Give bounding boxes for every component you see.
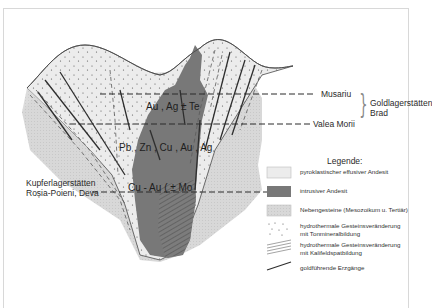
legend-label: intrusiver Andesit bbox=[300, 187, 347, 195]
legend-label-line2: mit Kalifeldspatbildung bbox=[300, 249, 362, 257]
level-label-valea-morii: Valea Morii bbox=[313, 119, 355, 129]
legend-label: goldführende Erzgänge bbox=[300, 264, 364, 272]
mineral-zone-middle: Pb , Zn , Cu , Au , Ag bbox=[119, 142, 212, 153]
legend-item-pyroclastic: pyroklastischer effusiver Andesit bbox=[267, 168, 412, 188]
legend-item-tonmineral: hydrothermale Gesteinsveränderung mit To… bbox=[267, 222, 412, 242]
legend-label: Nebengesteine (Mesozoikum u. Tertiär) bbox=[300, 206, 408, 214]
legend-item-vein: goldführende Erzgänge bbox=[267, 264, 412, 284]
left-label-line1: Kupferlagerstätten bbox=[26, 178, 95, 188]
group-label-line2: Brad bbox=[370, 108, 388, 118]
level-label-musariu: Musariu bbox=[321, 89, 351, 99]
legend-label: pyroklastischer effusiver Andesit bbox=[300, 168, 388, 176]
legend-label-line1: hydrothermale Gesteinsveränderung bbox=[300, 241, 400, 249]
brace-icon: } bbox=[359, 89, 367, 119]
mineral-zone-lower: Cu - Au ( ± Mo bbox=[128, 182, 192, 193]
legend-label-line1: hydrothermale Gesteinsveränderung bbox=[300, 222, 400, 230]
legend-label-line2: mit Tonmineralbildung bbox=[300, 230, 360, 238]
group-label-line1: Goldlagerstätten bbox=[370, 98, 432, 108]
legend-title: Legende: bbox=[327, 156, 362, 166]
legend-item-intrusive: intrusiver Andesit bbox=[267, 187, 412, 207]
mineral-zone-upper: Au , Ag ± Te bbox=[146, 101, 200, 112]
left-label-line2: Roșia-Poieni, Deva bbox=[26, 188, 99, 198]
legend-item-kalifeldspat: hydrothermale Gesteinsveränderung mit Ka… bbox=[267, 241, 412, 261]
